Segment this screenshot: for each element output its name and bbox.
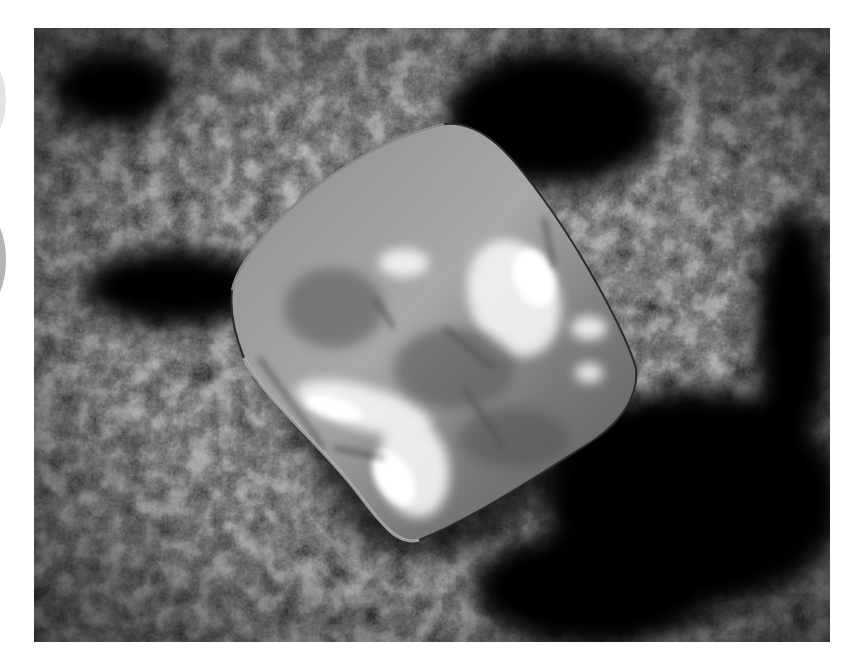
photo-illustration <box>34 28 830 642</box>
diamond-photo <box>34 28 830 642</box>
margin-hole-mark <box>0 60 6 140</box>
page <box>0 0 849 669</box>
margin-hole-mark <box>0 215 6 305</box>
